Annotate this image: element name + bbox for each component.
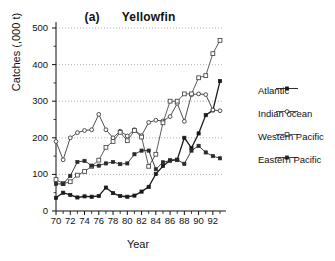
y-tick-label: 200 bbox=[22, 132, 48, 143]
legend-item[interactable]: Atlantic bbox=[258, 78, 335, 101]
x-axis-label: Year bbox=[56, 238, 220, 250]
legend-marker-icon bbox=[276, 101, 298, 108]
y-axis-label: Catches (,000 t) bbox=[10, 0, 22, 112]
legend-marker-icon bbox=[276, 124, 298, 131]
legend-label: Atlantic bbox=[258, 85, 289, 96]
y-tick-label: 0 bbox=[22, 205, 48, 216]
legend-item[interactable]: Eastern Pacific bbox=[258, 147, 335, 170]
legend-label: Eastern Pacific bbox=[258, 154, 321, 165]
legend-item[interactable]: Indian ocean bbox=[258, 101, 335, 124]
chart-legend: AtlanticIndian oceanWestern PacificEaste… bbox=[258, 78, 335, 170]
chart-figure: (a)Yellowfin Catches (,000 t) Year 01002… bbox=[0, 0, 335, 261]
x-tick-label: 92 bbox=[204, 215, 222, 226]
y-tick-label: 500 bbox=[22, 22, 48, 33]
legend-marker-icon bbox=[276, 147, 298, 154]
legend-marker-icon bbox=[276, 78, 298, 85]
legend-label: Indian ocean bbox=[258, 108, 312, 119]
y-tick-label: 400 bbox=[22, 59, 48, 70]
y-tick-label: 300 bbox=[22, 95, 48, 106]
legend-item[interactable]: Western Pacific bbox=[258, 124, 335, 147]
y-tick-label: 100 bbox=[22, 168, 48, 179]
legend-label: Western Pacific bbox=[258, 131, 324, 142]
